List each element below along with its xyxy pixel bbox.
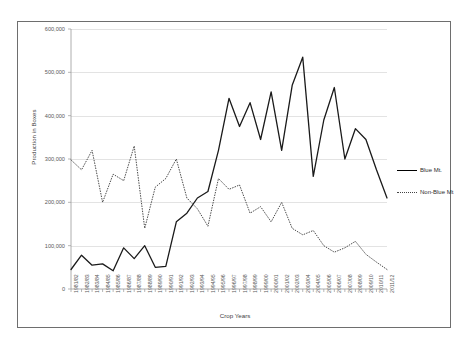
legend-swatch-dotted-line-icon (397, 189, 417, 196)
chart-legend: Blue Mt.Non-Blue Mt (397, 164, 453, 208)
legend-item-blue-mt[interactable]: Blue Mt. (397, 164, 453, 176)
legend-item-non-blue-mt[interactable]: Non-Blue Mt (397, 186, 453, 198)
legend-label: Blue Mt. (420, 167, 442, 173)
series-lines (18, 22, 452, 329)
x-axis-title: Crop Years (18, 312, 452, 319)
chart-plot-region: Production in Boxes 600,000500,000400,00… (18, 22, 450, 327)
chart-figure: Production in Boxes 600,000500,000400,00… (17, 21, 451, 328)
series-line-non-blue-mt (71, 146, 387, 270)
legend-swatch-solid-line-icon (397, 167, 417, 174)
legend-label: Non-Blue Mt (420, 189, 453, 195)
series-line-blue-mt (71, 57, 387, 271)
